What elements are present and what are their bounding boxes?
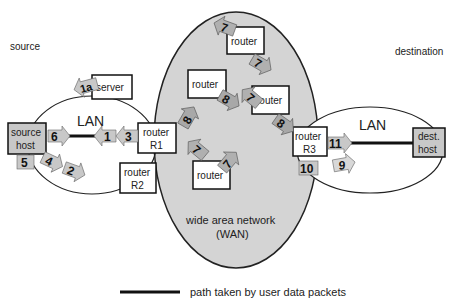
svg-text:router: router	[192, 79, 219, 90]
label-destination: destination	[395, 46, 443, 57]
step-2-arrow: 2	[61, 158, 89, 184]
legend-text: path taken by user data packets	[190, 286, 346, 298]
svg-text:host: host	[418, 144, 437, 155]
svg-text:10: 10	[300, 162, 314, 176]
svg-text:3: 3	[125, 130, 132, 144]
step-10-badge: 10	[299, 161, 318, 176]
svg-text:router: router	[143, 127, 170, 138]
router-r3-node[interactable]: router R3	[293, 127, 327, 156]
svg-text:router: router	[231, 36, 258, 47]
router-r2-node[interactable]: router R2	[120, 163, 156, 193]
svg-text:host: host	[16, 140, 35, 151]
svg-text:5: 5	[21, 156, 28, 170]
svg-text:server: server	[96, 82, 124, 93]
router-r1-node[interactable]: router R1	[138, 123, 176, 153]
svg-text:6: 6	[51, 130, 58, 144]
svg-text:router: router	[197, 170, 224, 181]
step-1-arrow: 1	[94, 126, 116, 146]
label-lan-right: LAN	[359, 117, 386, 133]
svg-text:11: 11	[329, 137, 342, 151]
label-wan-1: wide area network	[185, 214, 276, 226]
step-5-badge: 5	[17, 155, 34, 170]
svg-text:R2: R2	[131, 180, 144, 191]
svg-text:source: source	[11, 127, 41, 138]
svg-text:dest.: dest.	[418, 131, 440, 142]
wan-router-left-node[interactable]: router	[188, 70, 226, 98]
step-3-arrow: 3	[116, 126, 138, 146]
svg-text:R3: R3	[303, 144, 316, 155]
svg-text:router: router	[124, 167, 151, 178]
svg-text:R1: R1	[150, 140, 163, 151]
step-6-arrow: 6	[48, 126, 70, 146]
label-source: source	[10, 41, 40, 52]
label-wan-2: (WAN)	[216, 228, 249, 240]
dest-host-node[interactable]: dest. host	[413, 128, 445, 157]
svg-text:router: router	[295, 131, 322, 142]
source-host-node[interactable]: source host	[8, 123, 46, 154]
label-lan-left: LAN	[77, 113, 104, 129]
svg-text:1: 1	[104, 130, 111, 144]
